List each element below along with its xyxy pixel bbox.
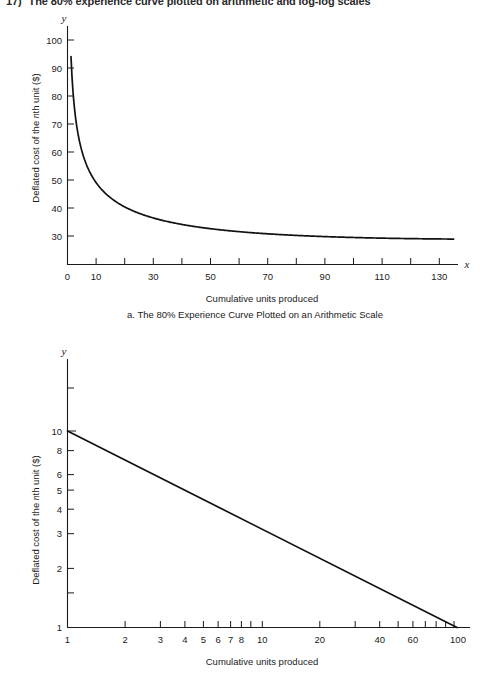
chart-b-y-ticks bbox=[68, 388, 77, 628]
chart-a-y-tick-labels: 100 90 80 70 60 50 40 30 bbox=[46, 35, 62, 242]
chart-a-x-tick-label: 30 bbox=[148, 271, 159, 282]
chart-b-y-symbol: y bbox=[61, 345, 67, 357]
chart-b-x-tick-label: 8 bbox=[239, 634, 244, 645]
experience-curve-loglog bbox=[68, 431, 458, 628]
chart-b-y-tick-label: 6 bbox=[57, 469, 62, 480]
chart-b-y-tick-label: 1 bbox=[57, 622, 62, 633]
chart-a-y-ticks bbox=[68, 40, 75, 236]
chart-b-y-tick-label: 3 bbox=[57, 528, 62, 539]
chart-b-y-tick-label: 5 bbox=[57, 485, 62, 496]
chart-a-y-tick-label: 60 bbox=[51, 147, 62, 158]
chart-a-x-tick-label: 130 bbox=[431, 271, 447, 282]
chart-b-x-tick-label: 4 bbox=[182, 634, 187, 645]
chart-b-x-tick-label: 60 bbox=[408, 634, 419, 645]
chart-a-x-axis-title: Cumulative units produced bbox=[206, 293, 318, 304]
chart-arithmetic-svg: y x 100 90 80 70 60 bbox=[0, 10, 480, 330]
chart-a-x-tick-label: 70 bbox=[262, 271, 273, 282]
chart-b-x-tick-labels: 1 2 3 4 5 6 7 8 10 20 40 60 100 bbox=[65, 634, 466, 645]
figure-number: 17) bbox=[6, 0, 22, 7]
chart-b-x-ticks bbox=[125, 621, 454, 628]
chart-a-x-tick-label: 10 bbox=[91, 271, 102, 282]
chart-arithmetic: y x 100 90 80 70 60 bbox=[0, 10, 480, 330]
chart-a-caption: a. The 80% Experience Curve Plotted on a… bbox=[127, 309, 383, 320]
chart-a-x-symbol: x bbox=[464, 258, 470, 270]
chart-a-x-ticks bbox=[96, 258, 439, 265]
chart-b-x-axis-title: Cumulative units produced bbox=[206, 656, 318, 667]
chart-a-x-tick-label: 90 bbox=[320, 271, 331, 282]
chart-b-x-tick-label: 2 bbox=[122, 634, 127, 645]
chart-a-y-tick-label: 40 bbox=[51, 203, 62, 214]
chart-b-y-tick-labels: 1 2 3 4 5 6 8 10 bbox=[51, 426, 62, 634]
chart-b-x-tick-label: 7 bbox=[228, 634, 233, 645]
chart-a-x-tick-label: 110 bbox=[375, 271, 390, 282]
chart-a-y-axis-title: Deflated cost of the nth unit ($) bbox=[30, 73, 41, 202]
chart-b-y-axis-title: Deflated cost of the nth unit ($) bbox=[30, 455, 41, 584]
chart-a-y-tick-label: 70 bbox=[51, 119, 62, 130]
figure-heading-text: The 80% experience curve plotted on arit… bbox=[29, 0, 371, 7]
chart-b-y-tick-label: 10 bbox=[51, 426, 62, 437]
figure-page: 17)The 80% experience curve plotted on a… bbox=[0, 0, 480, 679]
chart-loglog-svg: y 1 2 3 4 5 bbox=[0, 340, 480, 679]
chart-b-y-tick-label: 4 bbox=[57, 504, 62, 515]
chart-a-y-tick-label: 30 bbox=[51, 231, 62, 242]
chart-loglog: y 1 2 3 4 5 bbox=[0, 340, 480, 679]
experience-curve-arithmetic bbox=[71, 57, 454, 240]
chart-a-y-tick-label: 50 bbox=[51, 175, 62, 186]
chart-b-x-tick-label: 5 bbox=[201, 634, 206, 645]
chart-a-y-tick-label: 80 bbox=[51, 91, 62, 102]
chart-a-y-tick-label: 90 bbox=[51, 63, 62, 74]
chart-b-x-tick-label: 1 bbox=[65, 634, 70, 645]
chart-a-x-tick-labels: 0 10 30 50 70 90 110 130 bbox=[65, 271, 447, 282]
figure-heading: 17)The 80% experience curve plotted on a… bbox=[6, 0, 476, 7]
chart-a-x-tick-label: 50 bbox=[205, 271, 216, 282]
chart-b-x-tick-label: 40 bbox=[374, 634, 385, 645]
chart-b-x-tick-label: 100 bbox=[450, 634, 466, 645]
chart-b-x-tick-label: 20 bbox=[315, 634, 326, 645]
chart-b-y-tick-label: 2 bbox=[57, 563, 62, 574]
chart-a-y-tick-label: 100 bbox=[46, 35, 62, 46]
chart-b-x-tick-label: 10 bbox=[257, 634, 268, 645]
chart-a-x-tick-label: 0 bbox=[65, 271, 70, 282]
chart-b-x-tick-label: 6 bbox=[215, 634, 220, 645]
chart-b-y-tick-label: 8 bbox=[57, 445, 62, 456]
chart-a-y-symbol: y bbox=[61, 12, 67, 24]
chart-b-x-tick-label: 3 bbox=[158, 634, 163, 645]
